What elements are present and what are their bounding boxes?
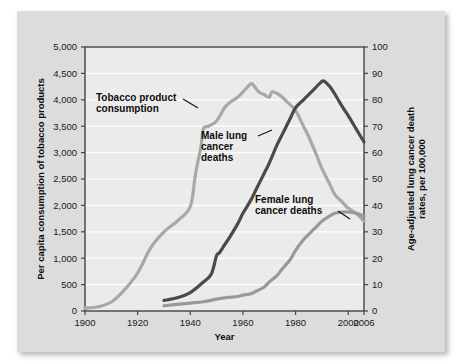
x-axis: 1900192019401960198020002006 bbox=[74, 311, 374, 328]
line-chart: 05001,0001,5002,0002,5003,0003,5004,0004… bbox=[0, 0, 464, 364]
figure-root: 05001,0001,5002,0002,5003,0003,5004,0004… bbox=[0, 0, 464, 364]
right-axis-tick-label: 40 bbox=[372, 200, 383, 211]
tobacco-annotation-line1: Tobacco product bbox=[96, 92, 177, 103]
x-axis-tick-label: 1960 bbox=[232, 317, 253, 328]
left-axis-title: Per capita consumption of tobacco produc… bbox=[35, 78, 46, 280]
x-axis-tick-label: 2006 bbox=[353, 317, 374, 328]
left-axis-tick-label: 4,500 bbox=[53, 68, 77, 79]
chart-canvas: 05001,0001,5002,0002,5003,0003,5004,0004… bbox=[0, 0, 464, 364]
left-axis-tick-label: 2,500 bbox=[53, 173, 77, 184]
left-axis-tick-label: 5,000 bbox=[53, 41, 77, 52]
male-annotation-line1: Male lung bbox=[201, 130, 247, 141]
left-axis-tick-label: 1,500 bbox=[53, 226, 77, 237]
right-axis-tick-label: 30 bbox=[372, 226, 383, 237]
right-axis-title-line1: Age-adjusted lung cancer death bbox=[405, 107, 416, 251]
right-axis-tick-label: 0 bbox=[372, 305, 377, 316]
right-axis-title: Age-adjusted lung cancer deathrates, per… bbox=[405, 107, 427, 251]
right-axis-tick-label: 80 bbox=[372, 94, 383, 105]
left-axis-tick-label: 500 bbox=[61, 279, 77, 290]
right-axis-tick-label: 50 bbox=[372, 173, 383, 184]
left-axis-tick-label: 3,000 bbox=[53, 147, 77, 158]
right-axis: 0102030405060708090100 bbox=[364, 41, 388, 316]
x-axis-tick-label: 1980 bbox=[285, 317, 306, 328]
left-axis: 05001,0001,5002,0002,5003,0003,5004,0004… bbox=[53, 41, 85, 316]
right-axis-tick-label: 10 bbox=[372, 279, 383, 290]
right-axis-title-line2: rates, per 100,000 bbox=[416, 139, 427, 219]
x-axis-tick-label: 1900 bbox=[74, 317, 95, 328]
x-axis-title: Year bbox=[214, 331, 234, 342]
male-annotation-line3: deaths bbox=[201, 152, 234, 163]
left-axis-tick-label: 2,000 bbox=[53, 200, 77, 211]
left-axis-tick-label: 1,000 bbox=[53, 253, 77, 264]
x-axis-tick-label: 1940 bbox=[180, 317, 201, 328]
left-axis-tick-label: 4,000 bbox=[53, 94, 77, 105]
female-annotation-line2: cancer deaths bbox=[255, 205, 323, 216]
right-axis-tick-label: 20 bbox=[372, 253, 383, 264]
male-annotation-line2: cancer bbox=[201, 141, 233, 152]
right-axis-tick-label: 100 bbox=[372, 41, 388, 52]
x-axis-tick-label: 1920 bbox=[127, 317, 148, 328]
right-axis-tick-label: 90 bbox=[372, 68, 383, 79]
right-axis-tick-label: 60 bbox=[372, 147, 383, 158]
left-axis-tick-label: 0 bbox=[72, 305, 77, 316]
right-axis-tick-label: 70 bbox=[372, 121, 383, 132]
left-axis-tick-label: 3,500 bbox=[53, 121, 77, 132]
tobacco-annotation-line2: consumption bbox=[96, 103, 159, 114]
female-annotation-line1: Female lung bbox=[255, 194, 313, 205]
